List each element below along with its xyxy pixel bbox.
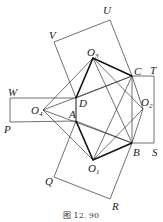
- point-label-u: U: [103, 4, 112, 16]
- point-label-v: V: [49, 29, 57, 41]
- point-label-a: A: [68, 108, 76, 120]
- point-label-p: P: [3, 123, 11, 135]
- bold-edges: [76, 58, 132, 160]
- point-label-t: T: [150, 64, 157, 76]
- geometry-diagram: UVO3CTWDO2O4APBSO1QR 图 12. 90: [0, 0, 163, 222]
- figure-caption: 图 12. 90: [63, 211, 99, 220]
- point-label-c: C: [134, 65, 142, 77]
- point-label-o1: O1: [88, 162, 99, 176]
- point-labels: UVO3CTWDO2O4APBSO1QR: [3, 4, 158, 212]
- point-label-o3: O3: [87, 46, 99, 60]
- point-label-w: W: [8, 86, 18, 98]
- point-label-o2: O2: [141, 96, 153, 110]
- point-label-r: R: [111, 200, 119, 212]
- point-label-b: B: [133, 146, 140, 158]
- point-label-d: D: [78, 97, 87, 109]
- point-label-s: S: [152, 146, 158, 158]
- point-label-q: Q: [45, 175, 53, 187]
- point-label-o4: O4: [31, 104, 43, 118]
